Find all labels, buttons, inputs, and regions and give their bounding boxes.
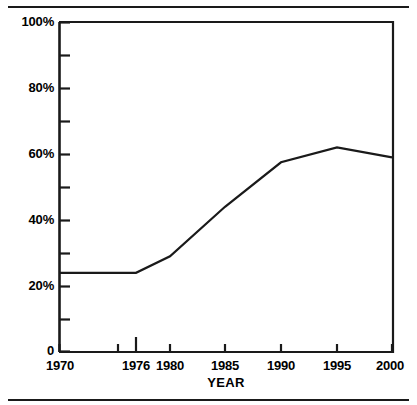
x-axis-ticks [60,337,393,352]
y-tick-label-40: 40% [4,212,54,227]
x-tick-label-1990: 1990 [255,358,307,373]
y-tick-label-100: 100% [4,14,54,29]
x-tick-label-1980: 1980 [144,358,196,373]
x-tick-label-1985: 1985 [199,358,251,373]
y-tick-label-20: 20% [4,278,54,293]
y-tick-label-0: 0 [4,343,54,358]
line-chart: 100% 80% 60% 40% 20% 0 1970 1976 1980 19… [0,0,417,405]
x-tick-label-1995: 1995 [311,358,363,373]
x-tick-label-2000: 2000 [364,358,416,373]
y-tick-label-60: 60% [4,146,54,161]
y-tick-label-80: 80% [4,80,54,95]
plot-frame [59,22,393,352]
x-tick-label-1970: 1970 [34,358,86,373]
x-axis-title: YEAR [176,375,276,390]
data-series-line [60,147,393,272]
figure-container: 100% 80% 60% 40% 20% 0 1970 1976 1980 19… [0,0,417,405]
chart-plot-svg [0,0,417,405]
